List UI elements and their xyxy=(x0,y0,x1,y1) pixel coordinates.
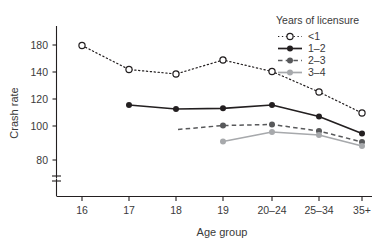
data-point xyxy=(359,131,365,137)
legend-marker-filled-circle-icon xyxy=(287,70,293,76)
data-point xyxy=(126,102,132,108)
legend: Years of licensure <1 1–2 2–3 xyxy=(276,14,359,78)
data-point xyxy=(316,89,322,95)
legend-item-1-2[interactable]: 1–2 xyxy=(278,42,326,54)
y-axis xyxy=(52,26,61,196)
legend-marker-open-circle-icon xyxy=(287,33,293,39)
data-point xyxy=(269,129,275,135)
data-point xyxy=(173,71,179,77)
legend-item-label: 3–4 xyxy=(308,66,326,78)
x-tick-label: 35+ xyxy=(353,204,371,216)
crash-rate-line-chart: 180 140 120 100 80 16 17 18 19 20–24 25–… xyxy=(0,0,378,246)
data-point xyxy=(359,143,365,149)
data-point xyxy=(79,42,85,48)
data-point xyxy=(269,122,275,128)
x-tick-label: 20–24 xyxy=(257,204,286,216)
data-point xyxy=(220,139,226,145)
series-3-4-markers xyxy=(220,129,365,149)
y-tick-label: 100 xyxy=(30,120,48,132)
data-point xyxy=(316,132,322,138)
x-tick-label: 18 xyxy=(170,204,182,216)
y-tick-labels: 180 140 120 100 80 xyxy=(30,39,48,166)
data-point xyxy=(269,68,275,74)
series-3-4-line xyxy=(223,132,362,146)
legend-marker-filled-circle-icon xyxy=(287,58,293,64)
legend-item-2-3[interactable]: 2–3 xyxy=(278,54,326,66)
x-tick-label: 17 xyxy=(123,204,135,216)
legend-item-3-4[interactable]: 3–4 xyxy=(278,66,326,78)
data-point xyxy=(269,102,275,108)
series-1-2 xyxy=(126,102,365,137)
legend-item-lt1[interactable]: <1 xyxy=(278,30,320,42)
data-point xyxy=(316,114,322,120)
legend-item-label: 2–3 xyxy=(308,54,326,66)
y-tick-label: 140 xyxy=(30,66,48,78)
y-tick-label: 180 xyxy=(30,39,48,51)
legend-marker-filled-circle-icon xyxy=(287,46,293,52)
x-axis-title: Age group xyxy=(197,226,248,238)
data-point xyxy=(359,110,365,116)
y-tick-label: 120 xyxy=(30,93,48,105)
x-tick-labels: 16 17 18 19 20–24 25–34 35+ xyxy=(76,204,371,216)
x-tick-label: 19 xyxy=(217,204,229,216)
series-3-4 xyxy=(220,129,365,149)
data-point xyxy=(220,123,226,129)
data-point xyxy=(173,106,179,112)
data-point xyxy=(220,105,226,111)
series-1-2-line xyxy=(129,105,362,134)
legend-title: Years of licensure xyxy=(276,14,359,26)
legend-item-label: 1–2 xyxy=(308,42,326,54)
y-tick-label: 80 xyxy=(36,154,48,166)
data-point xyxy=(220,57,226,63)
x-tick-marks xyxy=(82,197,362,202)
data-point xyxy=(126,66,132,72)
legend-item-label: <1 xyxy=(308,30,320,42)
chart-canvas: 180 140 120 100 80 16 17 18 19 20–24 25–… xyxy=(0,0,378,246)
y-axis-title: Crash rate xyxy=(8,87,20,138)
x-tick-label: 16 xyxy=(76,204,88,216)
y-tick-marks xyxy=(53,45,57,160)
x-tick-label: 25–34 xyxy=(304,204,333,216)
